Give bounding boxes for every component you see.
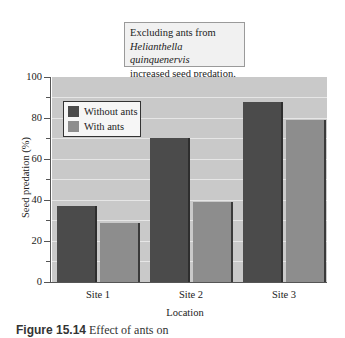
bar-site-2-without-ants <box>150 138 188 282</box>
y-tick-label: 20 <box>16 236 42 246</box>
annotation-line-2: Helianthella quinquenervis <box>130 40 239 67</box>
legend-swatch-light <box>68 121 79 132</box>
y-tick-label: 100 <box>16 72 42 82</box>
caption-label: Figure 15.14 <box>16 323 86 337</box>
legend-item-with-ants: With ants <box>68 121 124 133</box>
bar-site-3-with-ants <box>286 120 324 282</box>
y-minor-tick <box>46 261 51 262</box>
legend-item-without-ants: Without ants <box>68 106 138 118</box>
bar-site-2-with-ants <box>193 202 231 282</box>
bar-site-1-with-ants <box>100 223 138 282</box>
x-axis-line <box>44 282 327 283</box>
y-tick <box>44 241 51 242</box>
legend-label: With ants <box>84 121 124 132</box>
y-minor-tick <box>46 97 51 98</box>
y-minor-tick <box>46 138 51 139</box>
gridline <box>52 97 327 98</box>
y-axis-line <box>50 77 51 283</box>
x-tick-label: Site 1 <box>68 289 128 300</box>
x-axis-title: Location <box>155 307 215 318</box>
y-tick <box>44 118 51 119</box>
x-tick-label: Site 3 <box>254 289 314 300</box>
annotation-box: Excluding ants from Helianthella quinque… <box>124 22 245 67</box>
x-tick-label: Site 2 <box>161 289 221 300</box>
y-tick <box>44 77 51 78</box>
bar-site-1-without-ants <box>57 206 95 282</box>
y-axis-title: Seed predation (%) <box>20 123 31 233</box>
legend-label: Without ants <box>84 106 138 117</box>
legend: Without ants With ants <box>63 101 141 137</box>
y-minor-tick <box>46 179 51 180</box>
y-tick <box>44 200 51 201</box>
y-tick-label: 80 <box>16 113 42 123</box>
y-tick-label: 0 <box>16 277 42 287</box>
y-minor-tick <box>46 220 51 221</box>
bar-site-3-without-ants <box>243 102 281 282</box>
caption-text: Effect of ants on <box>89 323 168 337</box>
annotation-line-1: Excluding ants from <box>130 26 239 40</box>
legend-swatch-dark <box>68 106 79 117</box>
y-tick <box>44 159 51 160</box>
figure-caption: Figure 15.14 Effect of ants on <box>16 323 168 338</box>
